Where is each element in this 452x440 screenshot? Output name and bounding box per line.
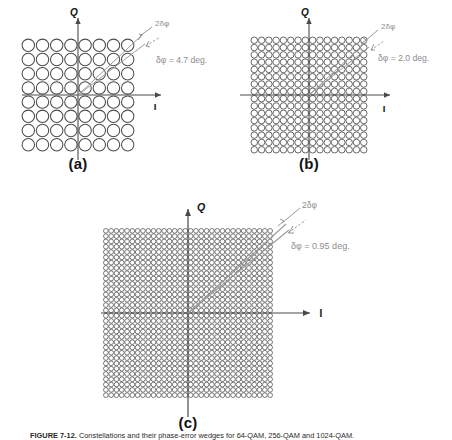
constellation-point <box>220 229 225 234</box>
constellation-point <box>331 52 338 59</box>
constellation-point <box>331 59 338 66</box>
constellation-point <box>135 350 140 355</box>
constellation-point <box>247 313 252 318</box>
constellation-point <box>241 276 246 281</box>
constellation-point <box>119 335 124 340</box>
constellation-point <box>114 287 119 292</box>
constellation-point <box>119 372 124 377</box>
constellation-point <box>231 324 236 329</box>
constellation-point <box>167 335 172 340</box>
constellation-point <box>167 329 172 334</box>
constellation-point <box>157 345 162 350</box>
constellation-point <box>309 139 316 146</box>
constellation-point <box>252 366 257 371</box>
constellation-point <box>146 340 151 345</box>
constellation-point <box>247 345 252 350</box>
constellation-point <box>183 260 188 265</box>
constellation-point <box>188 393 193 398</box>
constellation-point <box>295 103 302 110</box>
constellation-point <box>210 366 215 371</box>
constellation-point <box>236 239 241 244</box>
constellation-point <box>114 244 119 249</box>
constellation-point <box>302 81 309 88</box>
constellation-point <box>204 244 209 249</box>
constellation-point <box>162 250 167 255</box>
constellation-point <box>257 234 262 239</box>
constellation-point <box>65 68 77 80</box>
constellation-point <box>141 255 146 260</box>
constellation-point <box>266 59 273 66</box>
constellation-point <box>199 377 204 382</box>
constellation-point <box>268 324 273 329</box>
constellation-point <box>225 382 230 387</box>
constellation-point <box>109 255 114 260</box>
figure-caption-text: Constellations and their phase-error wed… <box>79 431 354 440</box>
constellation-point <box>135 393 140 398</box>
constellation-point <box>231 335 236 340</box>
constellation-point <box>135 345 140 350</box>
constellation-point <box>104 340 109 345</box>
constellation-point <box>183 350 188 355</box>
constellation-point <box>204 361 209 366</box>
constellation-point <box>65 39 77 51</box>
constellation-point <box>324 110 331 117</box>
constellation-point <box>199 271 204 276</box>
constellation-point <box>104 329 109 334</box>
constellation-point <box>225 244 230 249</box>
constellation-point <box>114 313 119 318</box>
constellation-point <box>183 244 188 249</box>
constellation-point <box>151 287 156 292</box>
constellation-point <box>199 356 204 361</box>
constellation-point <box>146 308 151 313</box>
constellation-point <box>157 335 162 340</box>
constellation-point <box>220 345 225 350</box>
panel-a-callout-leader-bottom <box>146 37 160 46</box>
constellation-point <box>51 124 63 136</box>
constellation-point <box>172 382 177 387</box>
constellation-point <box>188 276 193 281</box>
constellation-point <box>194 361 199 366</box>
constellation-point <box>130 350 135 355</box>
constellation-point <box>210 260 215 265</box>
constellation-point <box>309 66 316 73</box>
constellation-point <box>309 132 316 139</box>
constellation-point <box>215 372 220 377</box>
constellation-point <box>146 393 151 398</box>
constellation-point <box>146 282 151 287</box>
constellation-point <box>135 308 140 313</box>
constellation-point <box>225 229 230 234</box>
constellation-point <box>263 329 268 334</box>
constellation-point <box>215 250 220 255</box>
constellation-point <box>114 255 119 260</box>
constellation-point <box>188 324 193 329</box>
constellation-point <box>199 393 204 398</box>
constellation-point <box>178 287 183 292</box>
constellation-point <box>231 319 236 324</box>
constellation-point <box>199 229 204 234</box>
constellation-point <box>194 292 199 297</box>
constellation-point <box>302 139 309 146</box>
constellation-point <box>135 266 140 271</box>
constellation-point <box>346 117 353 124</box>
constellation-point <box>273 103 280 110</box>
constellation-point <box>146 244 151 249</box>
constellation-point <box>104 366 109 371</box>
constellation-point <box>220 308 225 313</box>
constellation-point <box>130 276 135 281</box>
constellation-point <box>109 350 114 355</box>
constellation-point <box>141 388 146 393</box>
constellation-point <box>353 95 360 102</box>
constellation-point <box>241 250 246 255</box>
constellation-point <box>93 39 105 51</box>
constellation-point <box>247 377 252 382</box>
constellation-point <box>231 382 236 387</box>
constellation-point <box>93 110 105 122</box>
constellation-point <box>119 260 124 265</box>
constellation-point <box>236 244 241 249</box>
constellation-point <box>268 393 273 398</box>
constellation-point <box>225 366 230 371</box>
constellation-point <box>172 319 177 324</box>
constellation-point <box>183 382 188 387</box>
constellation-point <box>178 255 183 260</box>
constellation-point <box>188 345 193 350</box>
